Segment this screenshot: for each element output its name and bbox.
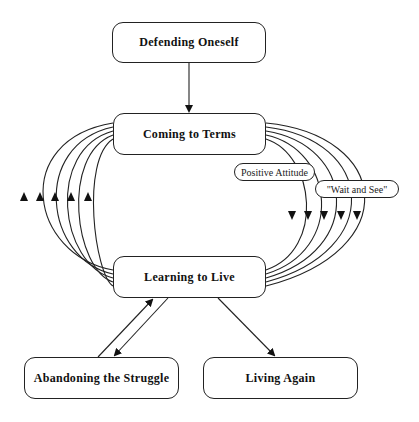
arrow-learning-to-living xyxy=(218,298,274,355)
node-defending-oneself: Defending Oneself xyxy=(112,22,266,63)
node-coming-to-terms: Coming to Terms xyxy=(113,113,266,155)
node-label: Coming to Terms xyxy=(143,127,236,142)
node-living-again: Living Again xyxy=(203,357,358,399)
arrow-abandoning-to-learning xyxy=(98,300,152,357)
edge-label-positive-attitude: Positive Attitude xyxy=(234,163,315,181)
node-label: Defending Oneself xyxy=(139,35,238,50)
edge-label-text: Positive Attitude xyxy=(241,167,308,178)
node-label: Learning to Live xyxy=(144,270,235,285)
arrow-learning-to-abandoning xyxy=(115,298,168,355)
node-learning-to-live: Learning to Live xyxy=(113,256,266,298)
edge-label-wait-and-see: "Wait and See" xyxy=(315,180,399,198)
edge-label-text: "Wait and See" xyxy=(327,184,388,195)
node-label: Abandoning the Struggle xyxy=(34,371,170,386)
node-label: Living Again xyxy=(246,371,316,386)
node-abandoning-the-struggle: Abandoning the Struggle xyxy=(24,357,179,399)
